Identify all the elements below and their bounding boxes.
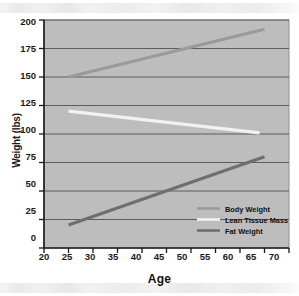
legend-label-body-weight: Body Weight (225, 205, 271, 214)
plot-area: Body Weight Lean Tissue Mass Fat Weight (0, 0, 299, 296)
line-chart-figure: Weight (lbs) Age 200 175 150 125 100 75 … (0, 0, 299, 296)
legend-label-lean-tissue-mass: Lean Tissue Mass (225, 216, 288, 225)
legend-label-fat-weight: Fat Weight (225, 227, 263, 236)
